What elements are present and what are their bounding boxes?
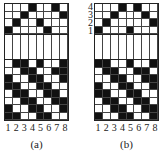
grid-cell	[5, 68, 13, 76]
column-label: 5	[37, 122, 45, 133]
grid-cell	[134, 27, 142, 35]
grid-cell	[150, 27, 158, 35]
grid-cell	[29, 105, 37, 113]
gap-column	[119, 35, 127, 59]
column-label: 2	[102, 122, 110, 133]
column-label: 2	[12, 122, 20, 133]
grid-cell	[60, 60, 68, 68]
grid-cell	[142, 105, 150, 113]
grid-cell	[150, 19, 158, 27]
grid-cell	[95, 98, 103, 106]
column-labels-b: 12345678	[94, 122, 159, 133]
grid-cell	[13, 90, 21, 98]
grid-cell	[127, 4, 135, 12]
grid-cell	[60, 98, 68, 106]
grid-cell	[37, 105, 45, 113]
grid-cell	[111, 68, 119, 76]
grid-cell	[119, 98, 127, 106]
grid-cell	[127, 83, 135, 91]
grid-cell	[127, 90, 135, 98]
column-label: 4	[118, 122, 126, 133]
column-labels-a: 12345678	[4, 122, 69, 133]
column-label: 6	[135, 122, 143, 133]
grid-cell	[134, 98, 142, 106]
grid-cell	[150, 68, 158, 76]
grid-cell	[5, 12, 13, 20]
grid-cell	[13, 12, 21, 20]
grid-cell	[29, 98, 37, 106]
column-label: 4	[28, 122, 36, 133]
gap-column	[127, 35, 135, 59]
grid-cell	[60, 83, 68, 91]
grid-cell	[5, 4, 13, 12]
grid-cell	[5, 90, 13, 98]
gap-column	[21, 35, 29, 59]
grid-cell	[134, 113, 142, 121]
grid-cell	[127, 68, 135, 76]
grid-cell	[111, 27, 119, 35]
grid-cell	[44, 113, 52, 121]
grid-cell	[60, 27, 68, 35]
grid-cell	[119, 4, 127, 12]
grid-cell	[111, 60, 119, 68]
grid-cell	[60, 105, 68, 113]
grid-cell	[142, 113, 150, 121]
column-label: 7	[143, 122, 151, 133]
grid-cell	[134, 60, 142, 68]
grid-cell	[37, 75, 45, 83]
spacer-grid-b	[94, 34, 159, 60]
grid-cell	[111, 90, 119, 98]
grid-cell	[37, 4, 45, 12]
column-label: 1	[4, 122, 12, 133]
grid-cell	[29, 68, 37, 76]
grid-cell	[29, 27, 37, 35]
grid-cell	[119, 12, 127, 20]
grid-cell	[37, 68, 45, 76]
grid-cell	[52, 113, 60, 121]
grid-cell	[52, 19, 60, 27]
grid-cell	[103, 90, 111, 98]
grid-cell	[142, 19, 150, 27]
column-label: 3	[20, 122, 28, 133]
grid-cell	[44, 68, 52, 76]
gap-column	[111, 35, 119, 59]
grid-cell	[103, 27, 111, 35]
grid-cell	[44, 12, 52, 20]
grid-cell	[134, 83, 142, 91]
grid-cell	[52, 98, 60, 106]
grid-cell	[52, 68, 60, 76]
caption-b: (b)	[94, 138, 159, 150]
grid-cell	[37, 19, 45, 27]
grid-cell	[119, 113, 127, 121]
grid-cell	[21, 90, 29, 98]
grid-cell	[127, 105, 135, 113]
gap-column	[13, 35, 21, 59]
grid-cell	[95, 4, 103, 12]
grid-cell	[60, 75, 68, 83]
grid-cell	[29, 12, 37, 20]
gap-column	[142, 35, 150, 59]
grid-cell	[21, 113, 29, 121]
grid-cell	[60, 19, 68, 27]
grid-cell	[44, 83, 52, 91]
column-label: 5	[127, 122, 135, 133]
grid-cell	[150, 60, 158, 68]
grid-cell	[37, 12, 45, 20]
grid-cell	[127, 75, 135, 83]
grid-cell	[103, 75, 111, 83]
weave-grid-b	[94, 59, 159, 121]
gap-column	[134, 35, 142, 59]
grid-cell	[142, 90, 150, 98]
grid-cell	[103, 60, 111, 68]
grid-cell	[21, 19, 29, 27]
grid-cell	[150, 4, 158, 12]
grid-cell	[127, 19, 135, 27]
grid-cell	[95, 19, 103, 27]
grid-cell	[142, 12, 150, 20]
grid-cell	[119, 60, 127, 68]
grid-cell	[134, 68, 142, 76]
grid-cell	[119, 68, 127, 76]
grid-cell	[111, 113, 119, 121]
grid-cell	[29, 4, 37, 12]
grid-cell	[95, 113, 103, 121]
